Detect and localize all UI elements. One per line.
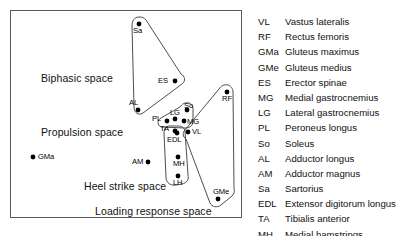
legend-abbreviation: PL [258, 120, 285, 135]
cluster-label: Loading response space [95, 205, 212, 217]
legend-abbreviation: TA [258, 211, 285, 226]
data-point-label: GMa [38, 152, 54, 161]
legend-row: PLPeroneus longus [258, 120, 418, 135]
data-point-label: PL [152, 114, 161, 123]
legend-row: RFRectus femoris [258, 29, 418, 44]
legend-row: TATibialis anterior [258, 211, 418, 226]
legend-abbreviation: RF [258, 29, 285, 44]
legend-abbreviation: GMa [258, 44, 285, 59]
legend-row: GMeGluteus medius [258, 60, 418, 75]
legend-row: EDLExtensor digitorum longus [258, 196, 418, 211]
data-point-label: AL [129, 98, 138, 107]
legend-muscle-name: Extensor digitorum longus [285, 196, 396, 211]
legend-abbreviation: AL [258, 151, 285, 166]
legend-muscle-name: Adductor longus [285, 151, 354, 166]
data-point-label: MH [173, 159, 185, 168]
legend-abbreviation: ES [258, 75, 285, 90]
legend-row: AMAdductor magnus [258, 166, 418, 181]
cluster-label: Heel strike space [84, 180, 166, 192]
data-point-label: Sa [133, 26, 142, 35]
cluster-label: Propulsion space [41, 126, 123, 138]
legend-abbreviation: GMe [258, 60, 285, 75]
legend-abbreviation: So [258, 136, 285, 151]
data-point-label: GMe [213, 187, 229, 196]
legend-row: MHMedial hamstrings [258, 227, 418, 236]
legend-abbreviation: Sa [258, 181, 285, 196]
legend-muscle-name: Peroneus longus [285, 120, 357, 135]
legend-row: SaSartorius [258, 181, 418, 196]
legend-muscle-name: Gluteus maximus [285, 44, 359, 59]
figure-container: Biphasic spacePropulsion spaceHeel strik… [0, 0, 420, 236]
legend-muscle-name: Adductor magnus [285, 166, 360, 181]
legend-row: VLVastus lateralis [258, 14, 418, 29]
legend-abbreviation: EDL [258, 196, 285, 211]
legend-abbreviation: MH [258, 227, 285, 236]
legend-muscle-name: Soleus [285, 136, 314, 151]
legend-row: ESErector spinae [258, 75, 418, 90]
legend-row: MGMedial gastrocnemius [258, 90, 418, 105]
legend-row: GMaGluteus maximus [258, 44, 418, 59]
data-point-label: ES [158, 76, 168, 85]
legend-abbreviation: VL [258, 14, 285, 29]
legend-abbreviation: LG [258, 105, 285, 120]
data-point-label: LG [170, 108, 180, 117]
data-point-label: VL [192, 127, 201, 136]
data-point-label: RF [222, 94, 232, 103]
data-point-label: TA [160, 124, 169, 133]
data-point-label: MG [187, 117, 199, 126]
legend-row: SoSoleus [258, 136, 418, 151]
cluster-label: Biphasic space [41, 72, 113, 84]
data-point-label: EDL [167, 135, 181, 144]
legend-muscle-name: Lateral gastrocnemius [285, 105, 379, 120]
legend-muscle-name: Tibialis anterior [285, 211, 350, 226]
legend-row: ALAdductor longus [258, 151, 418, 166]
data-point-label: LH [173, 178, 183, 187]
legend-row: LGLateral gastrocnemius [258, 105, 418, 120]
data-point-label: So [184, 101, 193, 110]
legend-muscle-name: Vastus lateralis [285, 14, 349, 29]
legend-muscle-name: Medial hamstrings [285, 227, 363, 236]
legend-muscle-name: Rectus femoris [285, 29, 349, 44]
legend-abbreviation: AM [258, 166, 285, 181]
data-point-label: AM [132, 157, 143, 166]
legend-muscle-name: Erector spinae [285, 75, 347, 90]
legend-muscle-name: Medial gastrocnemius [285, 90, 378, 105]
legend-muscle-name: Gluteus medius [285, 60, 352, 75]
legend-muscle-name: Sartorius [285, 181, 323, 196]
legend: VLVastus lateralisRFRectus femorisGMaGlu… [258, 14, 418, 236]
legend-abbreviation: MG [258, 90, 285, 105]
